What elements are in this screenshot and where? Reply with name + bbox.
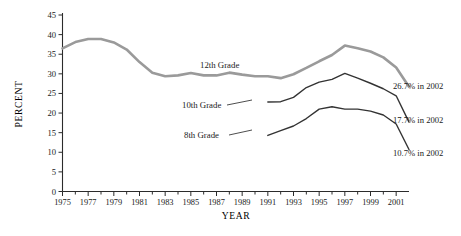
- x-axis-tick-marks: [63, 192, 397, 197]
- x-tick-label: 1981: [131, 198, 148, 207]
- y-tick-label: 35: [47, 49, 56, 59]
- y-tick-label: 5: [52, 167, 56, 177]
- x-tick-label: 1993: [285, 198, 302, 207]
- x-axis-tick-labels: 1975197719791981198319851987198919911993…: [54, 198, 404, 207]
- y-axis-title: PERCENT: [13, 81, 24, 128]
- x-tick-label: 1983: [157, 198, 174, 207]
- series-line-10th-grade: [268, 73, 409, 122]
- line-chart: 051015202530354045 197519771979198119831…: [0, 0, 461, 236]
- x-tick-label: 1975: [54, 198, 71, 207]
- leader-line-10th-grade: [227, 100, 252, 105]
- x-tick-label: 1995: [311, 198, 328, 207]
- y-tick-label: 0: [52, 187, 56, 197]
- chart-container: 051015202530354045 197519771979198119831…: [0, 0, 461, 236]
- y-axis-tick-labels: 051015202530354045: [47, 10, 56, 197]
- y-tick-label: 40: [47, 30, 56, 40]
- x-tick-label: 1985: [182, 198, 199, 207]
- y-tick-label: 30: [47, 69, 56, 79]
- y-tick-label: 10: [47, 147, 56, 157]
- end-label-8th-grade: 10.7% in 2002: [393, 148, 443, 158]
- x-tick-label: 1987: [208, 198, 225, 207]
- leader-line-8th-grade: [229, 130, 252, 135]
- y-axis-tick-marks: [59, 15, 63, 192]
- series-label-12th-grade: 12th Grade: [200, 60, 239, 70]
- x-tick-label: 1979: [105, 198, 122, 207]
- series-line-8th-grade: [268, 107, 409, 150]
- x-tick-label: 1991: [259, 198, 276, 207]
- end-label-10th-grade: 17.7% in 2002: [393, 115, 443, 125]
- x-tick-label: 1997: [336, 198, 353, 207]
- x-tick-label: 2001: [388, 198, 405, 207]
- y-tick-label: 15: [47, 128, 56, 138]
- series-label-10th-grade: 10th Grade: [182, 100, 221, 110]
- end-label-12th-grade: 26.7% in 2002: [393, 81, 443, 91]
- x-axis-title: YEAR: [222, 210, 251, 221]
- y-tick-label: 20: [47, 108, 56, 118]
- x-tick-label: 1977: [80, 198, 97, 207]
- series-label-8th-grade: 8th Grade: [184, 130, 219, 140]
- x-tick-label: 1999: [362, 198, 379, 207]
- x-tick-label: 1989: [234, 198, 251, 207]
- y-tick-label: 45: [47, 10, 56, 20]
- y-tick-label: 25: [47, 88, 56, 98]
